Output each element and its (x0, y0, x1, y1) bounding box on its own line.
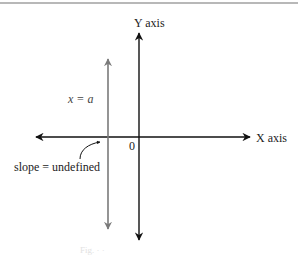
annotation-arrow-icon (80, 142, 100, 159)
figure-caption: Fig. · · (80, 246, 105, 255)
origin-label: 0 (129, 140, 135, 152)
vertical-line-label: x = a (68, 93, 93, 105)
x-axis-label: X axis (256, 132, 287, 144)
coordinate-plane (0, 0, 298, 256)
y-axis-label: Y axis (134, 17, 165, 29)
slope-annotation: slope = undefined (14, 161, 100, 173)
